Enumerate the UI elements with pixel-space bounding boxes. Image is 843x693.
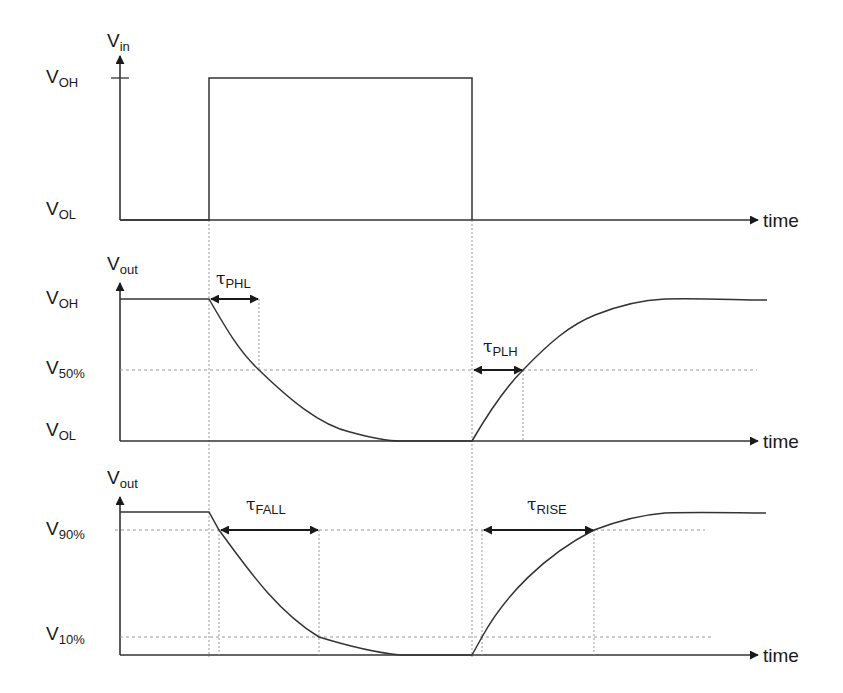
tau-phl-label: τPHL: [216, 270, 251, 290]
vout-axis-label-2: Vout: [107, 468, 138, 490]
input-panel: [111, 56, 758, 220]
output-fall-curve-2: [120, 512, 472, 655]
v10-label: V10%: [46, 624, 85, 646]
output-delay-panel: [120, 283, 767, 441]
timing-diagram: [0, 0, 843, 693]
vin-axis-label: Vin: [107, 31, 130, 53]
v90-label: V90%: [46, 519, 85, 541]
tau-rise-label: τRISE: [527, 496, 567, 516]
input-pulse: [120, 78, 472, 220]
voh-label-output: VOH: [46, 288, 78, 310]
output-rise-curve-2: [472, 513, 766, 655]
vol-label-input: VOL: [46, 199, 76, 221]
tau-plh-label: τPLH: [483, 338, 518, 358]
v50-label: V50%: [46, 358, 85, 380]
voh-label-input: VOH: [46, 67, 78, 89]
time-label-input: time: [763, 211, 799, 230]
tau-fall-label: τFALL: [246, 496, 286, 516]
time-label-output-2: time: [763, 646, 799, 665]
vout-axis-label-1: Vout: [107, 254, 138, 276]
time-label-output-1: time: [763, 432, 799, 451]
vol-label-output: VOL: [46, 420, 76, 442]
output-transition-panel: [115, 497, 766, 655]
